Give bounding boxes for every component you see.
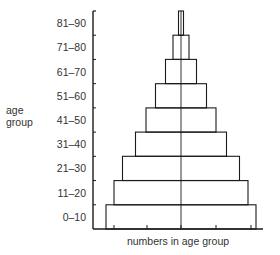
y-tick-label: 31–40 — [57, 138, 86, 150]
population-pyramid-chart: 0–1011–2021–3031–4041–5051–6061–7071–808… — [0, 0, 280, 255]
y-axis-title-line1: age — [6, 104, 33, 116]
y-axis-title: age group — [6, 104, 33, 128]
y-tick-label: 81–90 — [57, 17, 86, 29]
plot-area — [0, 0, 280, 255]
y-tick-label: 61–70 — [57, 66, 86, 78]
x-axis-title: numbers in age group — [93, 235, 263, 247]
y-axis-title-line2: group — [6, 116, 33, 128]
y-tick-label: 0–10 — [63, 211, 86, 223]
y-tick-label: 71–80 — [57, 41, 86, 53]
y-tick-label: 11–20 — [58, 187, 86, 199]
y-tick-label: 21–30 — [57, 162, 86, 174]
y-tick-label: 51–60 — [57, 90, 86, 102]
y-tick-label: 41–50 — [57, 114, 86, 126]
